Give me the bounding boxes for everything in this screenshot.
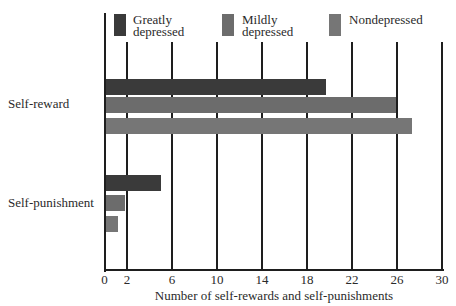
gridline-10 [216, 42, 218, 271]
bar-self-punishment-mildly-depressed [106, 195, 125, 211]
category-label-self-punishment: Self-punishment [8, 195, 94, 211]
gridline-2 [126, 42, 128, 271]
legend-swatch-mildly-depressed [222, 14, 234, 36]
x-tick-label-14: 14 [256, 272, 269, 288]
x-tick-label-18: 18 [301, 272, 314, 288]
x-tick-label-0: 0 [101, 272, 108, 288]
gridline-14 [261, 42, 263, 271]
legend-label-nondepressed: Nondepressed [349, 14, 423, 26]
bar-self-punishment-greatly-depressed [106, 175, 161, 191]
gridline-22 [351, 42, 353, 271]
bar-self-reward-greatly-depressed [106, 79, 327, 95]
x-tick-label-22: 22 [346, 272, 359, 288]
x-tick-label-26: 26 [391, 272, 404, 288]
y-axis-line [104, 13, 106, 272]
category-label-self-reward: Self-reward [8, 96, 69, 112]
x-tick-label-30: 30 [436, 272, 449, 288]
x-tick-label-6: 6 [169, 272, 176, 288]
x-tick-label-10: 10 [211, 272, 224, 288]
x-tick-label-2: 2 [124, 272, 131, 288]
bar-self-punishment-nondepressed [106, 216, 119, 232]
bar-self-reward-nondepressed [106, 118, 412, 134]
bar-self-reward-mildly-depressed [106, 97, 396, 113]
gridline-26 [396, 42, 398, 271]
legend-label-greatly-depressed: Greatly depressed [133, 14, 184, 38]
x-axis-line [104, 269, 444, 271]
gridline-6 [171, 42, 173, 271]
legend-swatch-greatly-depressed [114, 14, 126, 36]
gridline-30 [441, 42, 443, 271]
gridline-18 [306, 42, 308, 271]
x-axis-title: Number of self-rewards and self-punishme… [104, 288, 444, 304]
legend-label-mildly-depressed: Mildly depressed [242, 14, 293, 38]
legend-swatch-nondepressed [329, 14, 341, 36]
